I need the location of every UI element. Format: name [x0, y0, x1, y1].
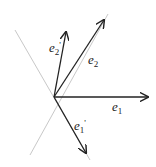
label-e1: e1	[112, 99, 122, 116]
basis-vectors-diagram: e1 e2 e2' e1'	[0, 0, 156, 167]
label-e2-prime: e2'	[49, 40, 61, 57]
label-e1-prime: e1'	[74, 118, 86, 135]
axis-line-b	[30, 14, 108, 155]
label-e2: e2	[88, 52, 98, 69]
